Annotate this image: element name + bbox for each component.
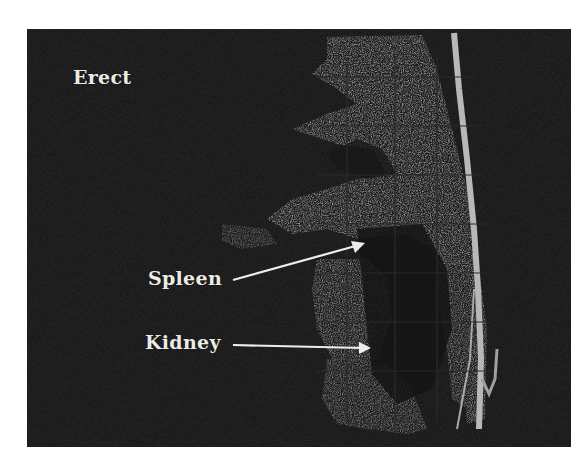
view-label-erect: Erect [73,66,131,88]
ultrasound-scan-graphic [27,29,571,447]
annotation-kidney: Kidney [145,331,221,353]
ultrasound-image: Erect Spleen Kidney [27,29,571,447]
background-grain [27,29,571,447]
annotation-spleen: Spleen [148,267,222,289]
